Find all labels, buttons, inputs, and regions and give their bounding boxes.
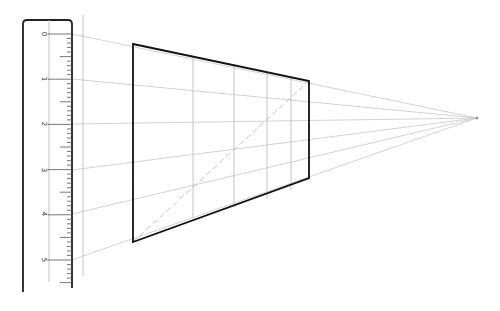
- diagonal: [133, 81, 309, 242]
- ruler-label: 4: [40, 212, 48, 217]
- diagonal-line: [133, 81, 309, 242]
- perspective-diagram: 012345: [0, 0, 500, 311]
- ruler: 012345: [23, 20, 72, 292]
- ruler-outline: [23, 20, 72, 292]
- ruler-label: 1: [40, 77, 48, 81]
- ruler-label: 0: [40, 32, 48, 36]
- vertical-grid-lines: [193, 57, 291, 218]
- ruler-label: 3: [40, 168, 48, 172]
- ruler-label: 5: [40, 258, 48, 262]
- ruler-label: 2: [40, 122, 48, 126]
- vanishing-point: [476, 117, 479, 120]
